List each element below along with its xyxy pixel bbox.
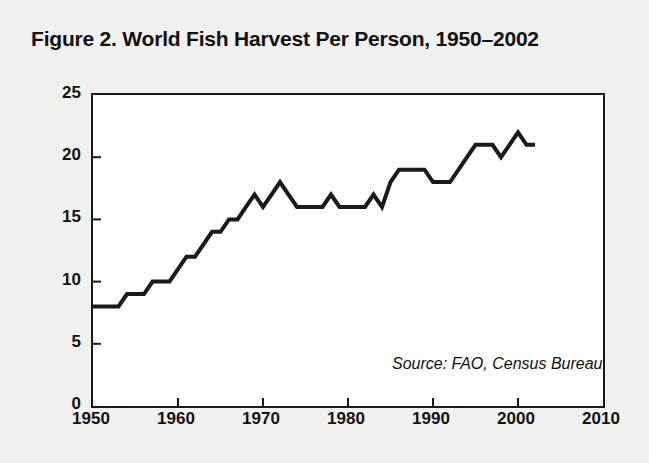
y-axis-tick-labels: 0510152025: [47, 93, 81, 404]
figure-title: Figure 2. World Fish Harvest Per Person,…: [31, 27, 539, 51]
fish-harvest-line: [93, 132, 535, 306]
y-tick-label: 10: [47, 271, 81, 288]
x-tick-label: 1980: [316, 410, 376, 427]
x-tick-label: 1950: [61, 410, 121, 427]
y-tick-label: 20: [47, 146, 81, 163]
source-note: Source: FAO, Census Bureau: [392, 355, 602, 373]
y-tick-label: 5: [47, 333, 81, 350]
x-axis-tick-labels: 1950196019701980199020002010: [91, 410, 601, 436]
x-tick-label: 1970: [231, 410, 291, 427]
x-tick-label: 1990: [401, 410, 461, 427]
y-tick-label: 15: [47, 208, 81, 225]
x-tick-label: 2000: [486, 410, 546, 427]
x-tick-label: 1960: [146, 410, 206, 427]
x-tick-label: 2010: [571, 410, 631, 427]
figure-container: Figure 2. World Fish Harvest Per Person,…: [0, 0, 649, 463]
y-tick-label: 25: [47, 84, 81, 101]
